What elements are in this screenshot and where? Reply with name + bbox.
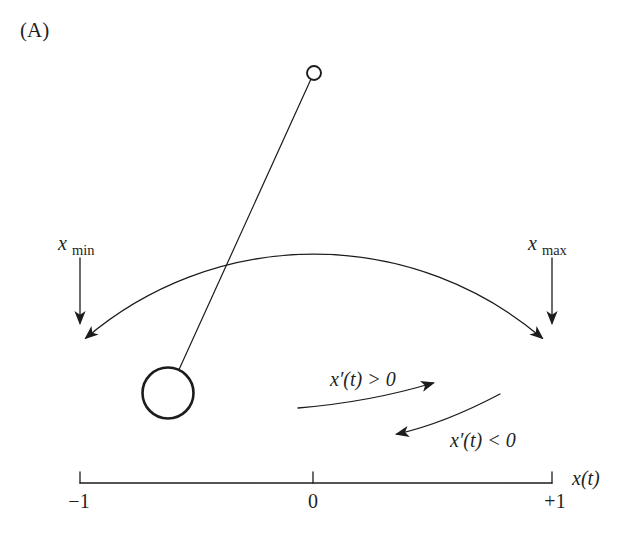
x-max-label: x max xyxy=(527,232,568,258)
pendulum-rod xyxy=(172,79,311,385)
x-min-subscript: min xyxy=(72,242,95,258)
pendulum-diagram: (A) x min x max x′(t) > 0 x′(t) < 0 xyxy=(0,0,634,544)
pivot-circle xyxy=(307,66,321,80)
x-min-label: x min xyxy=(57,232,95,258)
velocity-negative-arrow xyxy=(397,394,500,434)
x-axis: −1 0 +1 x(t) xyxy=(68,467,600,512)
axis-label: x(t) xyxy=(571,467,600,490)
pendulum-bob xyxy=(143,368,194,419)
swing-arc xyxy=(86,254,542,338)
tick-label-zero: 0 xyxy=(308,490,318,512)
velocity-negative-label: x′(t) < 0 xyxy=(449,429,516,452)
panel-label: (A) xyxy=(20,18,49,42)
tick-label-minus-one: −1 xyxy=(68,490,89,512)
x-min-base: x xyxy=(57,232,67,254)
velocity-positive-label: x′(t) > 0 xyxy=(329,368,396,391)
x-max-base: x xyxy=(527,232,537,254)
tick-label-plus-one: +1 xyxy=(544,490,565,512)
x-max-subscript: max xyxy=(542,242,568,258)
figure-canvas: (A) x min x max x′(t) > 0 x′(t) < 0 xyxy=(0,0,634,544)
